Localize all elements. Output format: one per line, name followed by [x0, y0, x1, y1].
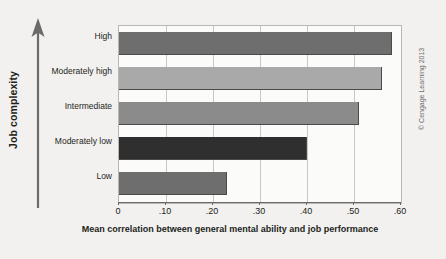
- bar-moderately-low: [119, 137, 307, 160]
- x-tick-30: [259, 202, 260, 205]
- x-tick-label-10: .10: [145, 206, 185, 216]
- bar-low: [119, 172, 227, 195]
- x-tick-60: [400, 202, 401, 205]
- x-tick-20: [212, 202, 213, 205]
- bar-moderately-high: [119, 67, 382, 90]
- x-tick-40: [306, 202, 307, 205]
- x-axis-title: Mean correlation between general mental …: [60, 224, 400, 234]
- x-tick-label-40: .40: [286, 206, 326, 216]
- x-tick-label-20: .20: [192, 206, 232, 216]
- copyright-credit: © Cengage Learning 2013: [418, 10, 425, 130]
- x-tick-label-30: .30: [239, 206, 279, 216]
- category-label-low: Low: [0, 171, 112, 181]
- bar-intermediate: [119, 102, 359, 125]
- category-label-moderately-high: Moderately high: [0, 66, 112, 76]
- plot-area: [118, 25, 402, 204]
- category-label-moderately-low: Moderately low: [0, 136, 112, 146]
- x-tick-label-50: .50: [333, 206, 373, 216]
- category-label-high: High: [0, 31, 112, 41]
- x-tick-50: [353, 202, 354, 205]
- category-label-intermediate: Intermediate: [0, 101, 112, 111]
- bar-high: [119, 32, 392, 55]
- chart-figure: Job complexity High Moderately high Inte…: [0, 0, 446, 259]
- x-tick-label-60: .60: [380, 206, 420, 216]
- category-labels: High Moderately high Intermediate Modera…: [46, 25, 116, 202]
- x-tick-label-0: 0: [98, 206, 138, 216]
- x-tick-0: [118, 202, 119, 205]
- bars-layer: [119, 26, 401, 203]
- x-tick-10: [165, 202, 166, 205]
